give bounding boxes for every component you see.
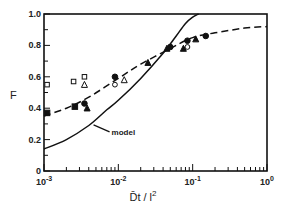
y-tick-label: 0.2 <box>28 135 41 145</box>
annotations: model <box>94 125 136 137</box>
square-filled-marker <box>72 104 78 110</box>
chart: 00.20.40.60.81.0 10-310-210-1100 model F… <box>0 0 284 210</box>
x-axis: 10-310-210-1100 <box>36 164 274 187</box>
circle-open-marker <box>185 45 190 50</box>
y-tick-label: 0.4 <box>28 103 41 113</box>
triangle-open-marker <box>121 77 127 83</box>
circle-filled-marker <box>112 74 118 80</box>
square-open-marker <box>45 82 50 87</box>
curves <box>44 14 267 149</box>
y-tick-label: 0.8 <box>28 40 41 50</box>
x-axis-label: D̄t / l2 <box>129 189 157 203</box>
y-tick-label: 1.0 <box>28 9 41 19</box>
y-axis: 00.20.40.60.81.0 <box>28 9 50 176</box>
model-annotation-label: model <box>112 128 136 137</box>
circle-filled-marker <box>203 33 209 39</box>
triangle-open-marker <box>81 81 87 87</box>
y-axis-label: F <box>10 89 17 101</box>
plot-frame <box>44 14 267 171</box>
square-open-marker <box>82 75 87 80</box>
x-tick-label: 100 <box>260 175 274 187</box>
x-tick-label: 10-1 <box>185 175 201 187</box>
data-markers <box>44 33 208 115</box>
square-open-marker <box>71 79 76 84</box>
y-tick-label: 0 <box>36 166 41 176</box>
circle-filled-marker <box>185 38 191 44</box>
annotation-leader-line <box>94 125 110 132</box>
dashed-fit-curve <box>44 27 267 117</box>
y-tick-label: 0.6 <box>28 72 41 82</box>
square-filled-marker <box>44 110 50 116</box>
triangle-filled-marker <box>145 59 151 65</box>
x-tick-label: 10-2 <box>110 175 126 187</box>
circle-open-marker <box>113 82 118 87</box>
x-tick-label: 10-3 <box>36 175 52 187</box>
